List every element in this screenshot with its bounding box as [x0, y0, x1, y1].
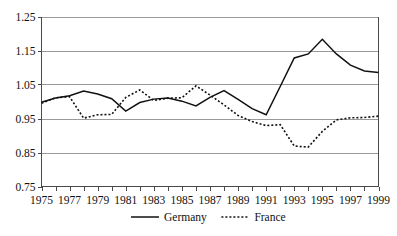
x-axis-tick-label: 1987 — [199, 194, 222, 206]
x-axis-tick-label: 1993 — [283, 194, 306, 206]
x-axis-tick-label: 1997 — [339, 194, 362, 206]
y-axis-tick-label: 0.85 — [15, 147, 35, 159]
x-axis-tick-label: 1977 — [58, 194, 81, 206]
chart-canvas: 1.251.151.050.950.850.75 197519771979198… — [0, 0, 397, 236]
series-line-germany — [42, 39, 379, 114]
x-axis-tick-label: 1985 — [170, 194, 193, 206]
x-axis-tick-label: 1995 — [311, 194, 334, 206]
x-axis-ticks — [43, 187, 380, 191]
y-axis-tick-label: 0.75 — [15, 181, 35, 193]
x-axis-tick-label: 1975 — [30, 194, 53, 206]
y-axis-tick-labels: 1.251.151.050.950.850.75 — [15, 11, 35, 193]
y-axis-tick-label: 0.95 — [15, 113, 35, 125]
gridlines — [42, 18, 379, 154]
legend-label-france: France — [254, 211, 285, 223]
x-axis-tick-label: 1979 — [86, 194, 109, 206]
legend-label-germany: Germany — [164, 211, 207, 224]
data-series — [42, 39, 379, 147]
x-axis-tick-label: 1981 — [114, 194, 137, 206]
x-axis-tick-label: 1991 — [255, 194, 278, 206]
chart-legend: GermanyFrance — [131, 211, 286, 224]
y-axis-tick-label: 1.05 — [15, 79, 35, 91]
chart-axes — [38, 17, 379, 188]
x-axis-tick-label: 1999 — [367, 194, 390, 206]
series-line-france — [42, 86, 379, 147]
line-chart: 1.251.151.050.950.850.75 197519771979198… — [0, 0, 397, 236]
y-axis-tick-label: 1.25 — [15, 11, 35, 23]
x-axis-tick-labels: 1975197719791981198319851987198919911993… — [30, 194, 390, 206]
x-axis-tick-label: 1989 — [227, 194, 250, 206]
x-axis-tick-label: 1983 — [142, 194, 165, 206]
y-axis-tick-label: 1.15 — [15, 45, 35, 57]
